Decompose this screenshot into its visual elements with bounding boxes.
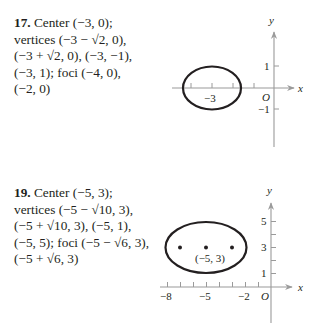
focus-point-left <box>178 246 182 250</box>
focus-point-right <box>230 246 234 250</box>
y-tick-label-1: 1 <box>261 267 267 279</box>
y-tick-label-1: 1 <box>264 60 270 72</box>
x-tick-label-neg2: −2 <box>238 290 250 302</box>
origin-label: O <box>261 290 269 302</box>
y-axis-label: y <box>268 14 274 26</box>
graph-17: y x O −3 1 −1 <box>172 14 303 147</box>
y-tick-label-neg1: −1 <box>258 103 270 115</box>
x-tick-label-neg3: −3 <box>204 92 216 104</box>
y-tick-label-5: 5 <box>261 215 267 227</box>
x-axis-label: x <box>297 82 303 94</box>
x-tick-label-neg5: −5 <box>199 290 211 302</box>
origin-label: O <box>262 91 270 103</box>
center-point-label: (−5, 3) <box>195 252 225 265</box>
x-ticks <box>191 83 254 88</box>
x-tick-label-neg8: −8 <box>160 290 172 302</box>
x-axis-label: x <box>297 281 303 293</box>
y-axis-label: y <box>266 184 272 196</box>
graphs: y x O −3 1 −1 (−5, 3) <box>0 0 332 336</box>
y-tick-label-3: 3 <box>261 241 267 253</box>
x-ticks <box>168 282 259 287</box>
graph-19: (−5, 3) y x O −8 −5 −2 5 3 1 <box>160 184 303 323</box>
center-point <box>204 246 208 250</box>
y-ticks <box>271 222 276 274</box>
